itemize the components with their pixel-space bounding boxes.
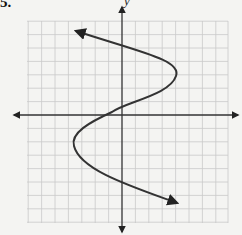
sideways-cubic-curve xyxy=(73,31,177,203)
grid-lines xyxy=(27,21,228,223)
coordinate-graph xyxy=(0,0,242,235)
